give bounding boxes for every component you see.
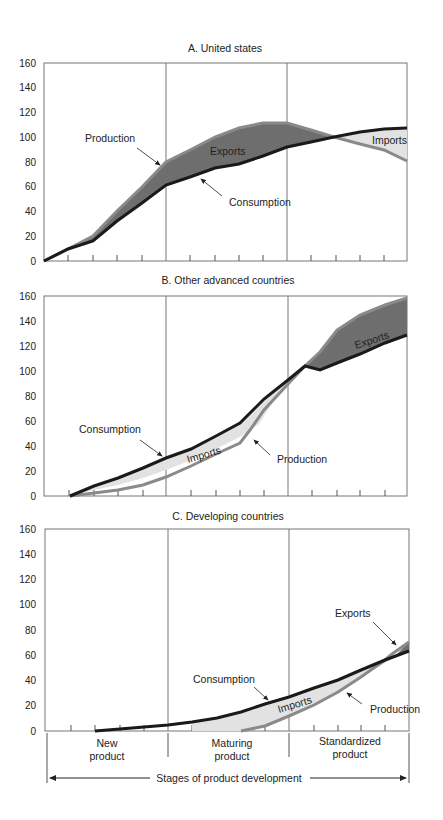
panel-b-consumption-line	[70, 335, 407, 496]
panel-b-y-axis: 0 20 40 60 80 100 120 140 160	[19, 291, 36, 502]
stages-axis: New product Maturing product Standardize…	[47, 733, 409, 784]
panel-c-developing-countries: C. Developing countries 0 20 40 60 80 10…	[19, 510, 420, 737]
panel-a-y-axis: 0 20 40 60 80 100 120 140 160	[19, 58, 36, 267]
panel-a-title: A. United states	[188, 42, 262, 54]
panel-a-united-states: A. United states 0 20 40 60 80 100 120 1…	[19, 42, 407, 267]
y-tick-label: 100	[19, 366, 36, 377]
panel-a-exports-label: Exports	[210, 145, 246, 157]
panel-c-plot-frame	[45, 529, 409, 731]
y-tick-label: 0	[30, 256, 36, 267]
panel-a-imports-label: Imports	[372, 134, 407, 146]
panel-c-consumption-label: Consumption	[193, 673, 255, 685]
panel-a-production-arrow-icon	[137, 148, 160, 165]
stage-new-line2: product	[89, 750, 124, 762]
stage-maturing-line2: product	[214, 750, 249, 762]
panel-a-x-ticks	[68, 255, 384, 261]
panel-b-other-advanced-countries: B. Other advanced countries 0 20 40 60 8…	[19, 274, 407, 502]
panel-c-title: C. Developing countries	[172, 510, 283, 522]
panel-c-production-arrow-icon	[347, 693, 362, 704]
stage-new-line1: New	[96, 737, 117, 749]
panel-b-exports-area	[305, 298, 407, 370]
panel-c-production-label: Production	[370, 703, 420, 715]
stage-standardized-line2: product	[332, 748, 367, 760]
y-tick-label: 160	[19, 291, 36, 302]
panel-a-consumption-arrow-icon	[201, 179, 222, 196]
y-tick-label: 20	[25, 466, 37, 477]
y-tick-label: 80	[25, 625, 37, 636]
y-tick-label: 140	[19, 316, 36, 327]
stage-maturing-line1: Maturing	[212, 737, 253, 749]
product-life-cycle-figure: A. United states 0 20 40 60 80 100 120 1…	[0, 0, 443, 820]
panel-b-title: B. Other advanced countries	[161, 274, 294, 286]
y-tick-label: 60	[25, 650, 37, 661]
panel-a-consumption-label: Consumption	[229, 196, 291, 208]
y-tick-label: 20	[25, 700, 37, 711]
y-tick-label: 80	[25, 391, 37, 402]
panel-c-consumption-arrow-icon	[254, 687, 268, 700]
panel-c-y-axis: 0 20 40 60 80 100 120 140 160	[19, 524, 36, 737]
panel-b-production-arrow-icon	[254, 440, 270, 455]
y-tick-label: 140	[19, 82, 36, 93]
y-tick-label: 60	[25, 181, 37, 192]
y-tick-label: 100	[19, 132, 36, 143]
y-tick-label: 80	[25, 157, 37, 168]
panel-b-consumption-arrow-icon	[140, 440, 162, 456]
y-tick-label: 20	[25, 231, 37, 242]
panel-b-consumption-label: Consumption	[79, 423, 141, 435]
stage-standardized-line1: Standardized	[319, 735, 381, 747]
y-tick-label: 0	[30, 726, 36, 737]
y-tick-label: 120	[19, 341, 36, 352]
y-tick-label: 40	[25, 675, 37, 686]
panel-c-exports-label: Exports	[335, 607, 371, 619]
y-tick-label: 60	[25, 416, 37, 427]
y-tick-label: 40	[25, 206, 37, 217]
y-tick-label: 120	[19, 107, 36, 118]
y-tick-label: 100	[19, 599, 36, 610]
y-tick-label: 40	[25, 441, 37, 452]
y-tick-label: 0	[30, 491, 36, 502]
stages-axis-label: Stages of product development	[156, 772, 301, 784]
y-tick-label: 120	[19, 574, 36, 585]
panel-c-exports-arrow-icon	[373, 622, 396, 645]
panel-a-production-label: Production	[85, 132, 135, 144]
y-tick-label: 160	[19, 58, 36, 69]
panel-b-production-label: Production	[277, 453, 327, 465]
y-tick-label: 160	[19, 524, 36, 535]
y-tick-label: 140	[19, 549, 36, 560]
